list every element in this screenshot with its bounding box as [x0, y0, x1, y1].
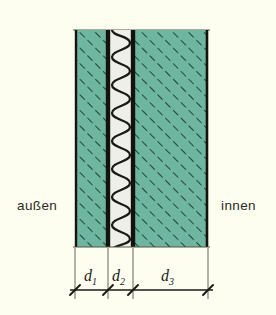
layer-1-hatching: [75, 30, 108, 247]
layer-3-inner-masonry: [133, 30, 208, 247]
dimension-label-d2-subscript: 2: [120, 276, 125, 287]
wall-cross-section-diagram: außen innen d 1 d 2 d 3: [0, 0, 276, 315]
layer-2-insulation: [108, 30, 133, 250]
figure-canvas: außen innen d 1 d 2 d 3: [0, 0, 276, 315]
layer-3-fill: [133, 30, 208, 247]
layer-1-outer-masonry: [75, 30, 108, 247]
exterior-label: außen: [17, 198, 57, 213]
dimension-label-d3-subscript: 3: [168, 276, 174, 287]
interior-label: innen: [221, 198, 256, 213]
dimension-label-d1-subscript: 1: [92, 276, 97, 287]
